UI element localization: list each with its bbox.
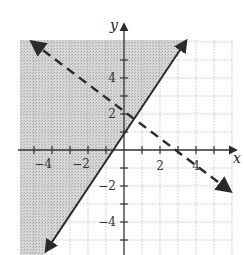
x-tick-label-neg4: −4 [34, 157, 52, 171]
y-tick-label-neg2: −2 [98, 179, 116, 193]
coordinate-graph: −4 −2 2 4 4 2 −2 −4 x y [0, 0, 244, 255]
x-tick-label-2: 2 [156, 159, 164, 173]
x-axis-label: x [233, 150, 241, 166]
y-tick-label-4: 4 [108, 71, 116, 85]
x-tick-label-4: 4 [192, 159, 200, 173]
y-tick-label-neg4: −4 [98, 215, 116, 229]
x-tick-label-neg2: −2 [72, 157, 90, 171]
y-axis-label: y [109, 17, 119, 33]
y-tick-label-2: 2 [108, 107, 116, 121]
